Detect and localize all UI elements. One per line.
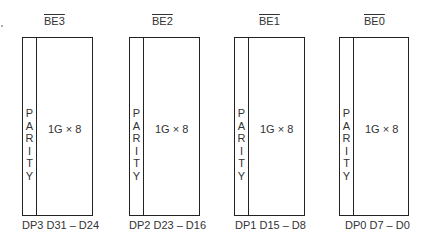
data-lines-label: DP1 D15 – D8 [235, 219, 306, 231]
capacity-label: 1G × 8 [155, 123, 188, 135]
parity-column: PARITY [340, 38, 354, 215]
data-lines-label: DP3 D31 – D24 [22, 219, 99, 231]
memory-chip: PARITY 1G × 8 [22, 37, 93, 216]
capacity-label: 1G × 8 [48, 123, 81, 135]
parity-column: PARITY [23, 38, 37, 215]
memory-bank-2: PARITY 1G × 8 [129, 37, 200, 216]
parity-label: PARITY [23, 107, 36, 182]
stray-mark [1, 25, 3, 27]
capacity-label: 1G × 8 [260, 123, 293, 135]
parity-column: PARITY [130, 38, 144, 215]
byte-enable-label: BE0 [364, 15, 385, 27]
parity-column: PARITY [235, 38, 249, 215]
parity-label: PARITY [340, 107, 353, 182]
parity-label: PARITY [235, 107, 248, 182]
memory-chip: PARITY 1G × 8 [129, 37, 200, 216]
memory-bank-0: PARITY 1G × 8 [339, 37, 409, 216]
parity-label: PARITY [130, 107, 143, 182]
memory-bank-3: PARITY 1G × 8 [22, 37, 93, 216]
byte-enable-label: BE2 [152, 15, 173, 27]
memory-chip: PARITY 1G × 8 [339, 37, 409, 216]
data-lines-label: DP0 D7 – D0 [345, 219, 410, 231]
byte-enable-label: BE1 [259, 15, 280, 27]
memory-bank-1: PARITY 1G × 8 [234, 37, 305, 216]
capacity-label: 1G × 8 [365, 123, 398, 135]
byte-enable-label: BE3 [44, 15, 65, 27]
data-lines-label: DP2 D23 – D16 [129, 219, 206, 231]
memory-chip: PARITY 1G × 8 [234, 37, 305, 216]
